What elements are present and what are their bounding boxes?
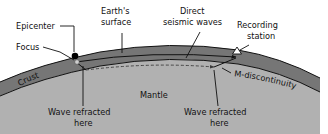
earths-surface-label-line1: Earth's	[101, 6, 129, 16]
wave-refracted-right-label-line1: Wave refracted	[184, 107, 247, 117]
epicenter-dot	[72, 53, 79, 60]
direct-seismic-waves-label-line2: seismic waves	[163, 17, 222, 27]
focus-dot	[75, 60, 80, 65]
wave-refracted-right-label-line2: here	[210, 118, 228, 128]
mantle-label: Mantle	[140, 90, 168, 100]
recording-station-label-line1: Recording	[237, 20, 278, 30]
epicenter-leader	[60, 26, 74, 52]
direct-seismic-waves-label-line1: Direct	[180, 6, 205, 16]
wave-refracted-left-label-line2: here	[74, 118, 92, 128]
recording-station-leader	[240, 45, 249, 50]
seismic-refraction-figure: Epicenter Focus Earth's surface Direct s…	[0, 0, 328, 134]
focus-label: Focus	[16, 42, 39, 52]
epicenter-label: Epicenter	[16, 21, 56, 31]
diagram-canvas: Epicenter Focus Earth's surface Direct s…	[0, 0, 328, 134]
focus-leader	[43, 47, 74, 60]
earths-surface-label-line2: surface	[101, 17, 131, 27]
recording-station-label-line2: station	[247, 31, 275, 41]
wave-refracted-left-label-line1: Wave refracted	[48, 107, 111, 117]
